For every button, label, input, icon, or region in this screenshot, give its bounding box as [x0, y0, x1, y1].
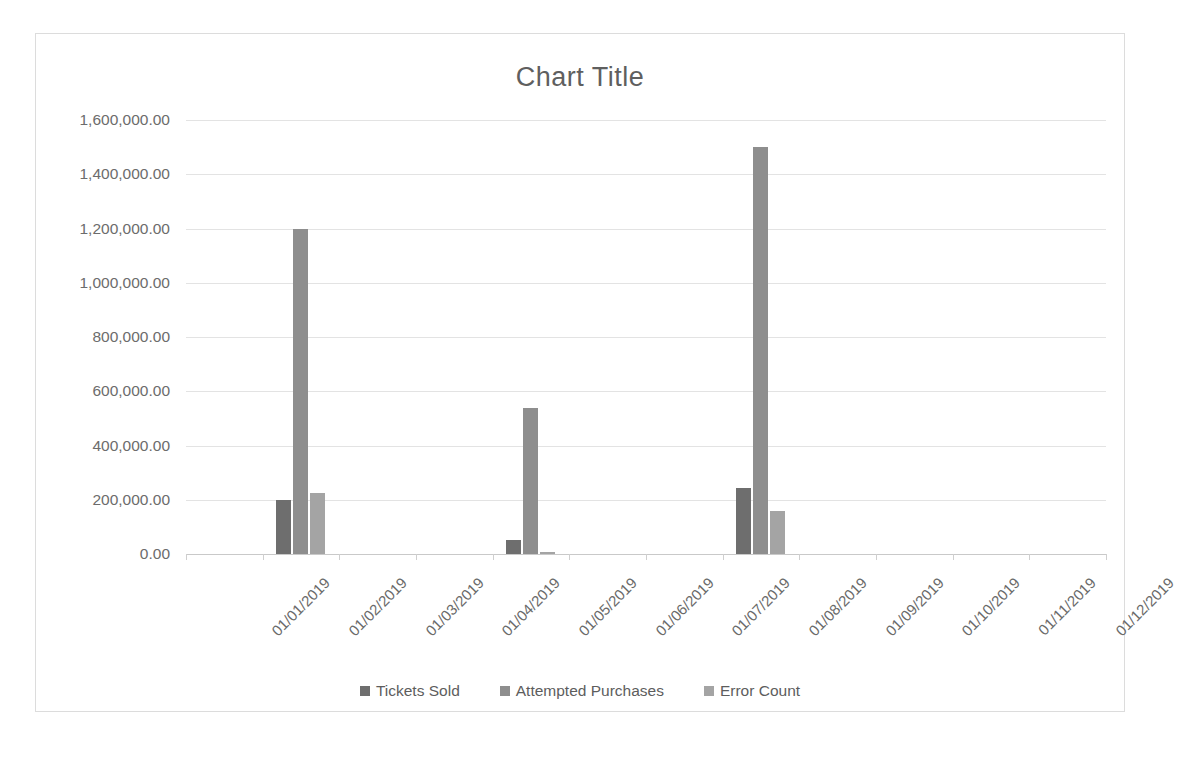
bar-cluster — [1029, 120, 1106, 554]
chart-frame: Chart Title 0.00200,000.00400,000.00600,… — [35, 33, 1125, 712]
y-axis-tick-label: 200,000.00 — [92, 491, 170, 509]
y-axis-tick-label: 0.00 — [140, 545, 170, 563]
y-axis-tick-label: 400,000.00 — [92, 437, 170, 455]
x-axis-tick-label: 01/10/2019 — [958, 574, 1023, 639]
x-axis-line — [186, 554, 1106, 555]
x-axis-tick-label: 01/01/2019 — [268, 574, 333, 639]
legend-swatch-icon — [704, 686, 714, 696]
x-axis-tick-label: 01/02/2019 — [345, 574, 410, 639]
bar-attempted-purchases[interactable] — [523, 408, 538, 554]
x-axis-labels: 01/01/201901/02/201901/03/201901/04/2019… — [186, 560, 1106, 670]
bar-cluster — [876, 120, 953, 554]
chart-title: Chart Title — [36, 62, 1124, 93]
bar-cluster — [263, 120, 340, 554]
bar-cluster — [186, 120, 263, 554]
bar-tickets-sold[interactable] — [736, 488, 751, 554]
legend-swatch-icon — [500, 686, 510, 696]
legend-label: Error Count — [720, 682, 800, 700]
bar-cluster — [493, 120, 570, 554]
legend-label: Attempted Purchases — [516, 682, 664, 700]
x-axis-tick-label: 01/06/2019 — [652, 574, 717, 639]
bar-error-count[interactable] — [770, 511, 785, 554]
bar-cluster — [953, 120, 1030, 554]
legend-item[interactable]: Error Count — [704, 682, 800, 700]
x-axis-tick-label: 01/08/2019 — [805, 574, 870, 639]
legend-item[interactable]: Attempted Purchases — [500, 682, 664, 700]
bar-attempted-purchases[interactable] — [293, 229, 308, 555]
legend-item[interactable]: Tickets Sold — [360, 682, 460, 700]
y-axis-tick-label: 800,000.00 — [92, 328, 170, 346]
x-axis-tick-label: 01/05/2019 — [575, 574, 640, 639]
legend-swatch-icon — [360, 686, 370, 696]
bar-cluster — [416, 120, 493, 554]
bar-cluster — [723, 120, 800, 554]
bar-cluster — [339, 120, 416, 554]
y-axis-tick-label: 1,600,000.00 — [79, 111, 170, 129]
bar-series-container — [186, 120, 1106, 554]
plot-area — [186, 120, 1106, 554]
y-axis-tick-label: 1,400,000.00 — [79, 165, 170, 183]
bar-cluster — [799, 120, 876, 554]
x-axis-tick-label: 01/03/2019 — [422, 574, 487, 639]
x-axis-tick-label: 01/07/2019 — [728, 574, 793, 639]
bar-tickets-sold[interactable] — [506, 540, 521, 554]
y-axis-labels: 0.00200,000.00400,000.00600,000.00800,00… — [36, 120, 178, 554]
chart-legend: Tickets SoldAttempted PurchasesError Cou… — [36, 682, 1124, 700]
x-axis-tick — [1106, 554, 1107, 560]
bar-cluster — [646, 120, 723, 554]
x-axis-tick-label: 01/12/2019 — [1112, 574, 1177, 639]
bar-error-count[interactable] — [310, 493, 325, 554]
x-axis-tick-label: 01/09/2019 — [882, 574, 947, 639]
bar-attempted-purchases[interactable] — [753, 147, 768, 554]
y-axis-tick-label: 1,000,000.00 — [79, 274, 170, 292]
x-axis-tick-label: 01/04/2019 — [498, 574, 563, 639]
legend-label: Tickets Sold — [376, 682, 460, 700]
y-axis-tick-label: 600,000.00 — [92, 382, 170, 400]
y-axis-tick-label: 1,200,000.00 — [79, 220, 170, 238]
bar-cluster — [569, 120, 646, 554]
x-axis-tick-label: 01/11/2019 — [1035, 574, 1099, 638]
bar-tickets-sold[interactable] — [276, 500, 291, 554]
